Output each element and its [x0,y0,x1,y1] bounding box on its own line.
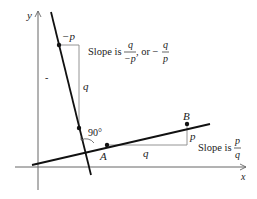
point-b-label: B [183,110,190,122]
steep-point-bottom [77,126,81,130]
angle-label: 90° [88,127,102,138]
steep-run-label: −p [62,30,75,42]
y-axis-label: y [26,9,32,21]
steep-rise-label: q [83,80,89,92]
shallow-line-triangle [107,124,187,145]
shallow-rise-label: p [189,130,196,142]
shallow-frac-num: p [234,135,240,146]
steep-frac1-den: −p [124,53,136,64]
point-a-label: A [99,150,107,162]
steep-frac2-den: p [162,53,168,64]
shallow-line [32,124,210,165]
steep-slope-text: Slope is [88,46,122,57]
steep-point-top [57,43,61,47]
point-b [185,122,189,126]
shallow-run-label: q [143,147,149,159]
x-axis-label: x [240,171,246,182]
tick-mark: - [45,72,48,83]
point-a [105,143,109,147]
steep-slope-or: , or − [136,46,159,57]
perpendicular-lines-diagram: y x 90° −p q - Slope is q −p , or − q p … [0,0,257,199]
shallow-frac-den: q [235,149,240,160]
steep-frac1-num: q [128,39,133,50]
steep-frac2-num: q [163,39,168,50]
shallow-slope-text: Slope is [198,142,232,153]
